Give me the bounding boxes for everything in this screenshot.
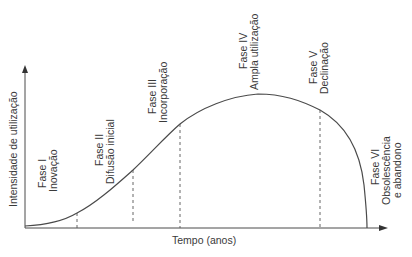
svg-text:e abandono: e abandono (391, 142, 403, 198)
svg-text:Ampla utilização: Ampla utilização (248, 13, 260, 90)
phase-2-label: Fase II Difusão inicial (93, 119, 116, 184)
y-axis-arrow-icon (22, 65, 28, 73)
svg-text:Inovação: Inovação (47, 149, 59, 192)
phase-5-label: Fase V Declinação (307, 42, 330, 94)
svg-text:Incorporação: Incorporação (157, 62, 169, 123)
phase-6-label: Fase VI Obsolescência e abandono (369, 136, 403, 205)
svg-text:Difusão inicial: Difusão inicial (104, 119, 116, 184)
svg-text:Declinação: Declinação (318, 42, 330, 94)
phase-3-label: Fase III Incorporação (146, 62, 169, 123)
lifecycle-curve (25, 94, 367, 228)
x-axis-label: Tempo (anos) (172, 234, 236, 246)
y-axis-label: Intensidade de utilização (7, 91, 19, 207)
lifecycle-diagram: Intensidade de utilização Tempo (anos) F… (0, 0, 412, 257)
phase-1-label: Fase I Inovação (36, 149, 59, 192)
phase-4-label: Fase IV Ampla utilização (237, 13, 260, 90)
x-axis-arrow-icon (379, 225, 388, 231)
